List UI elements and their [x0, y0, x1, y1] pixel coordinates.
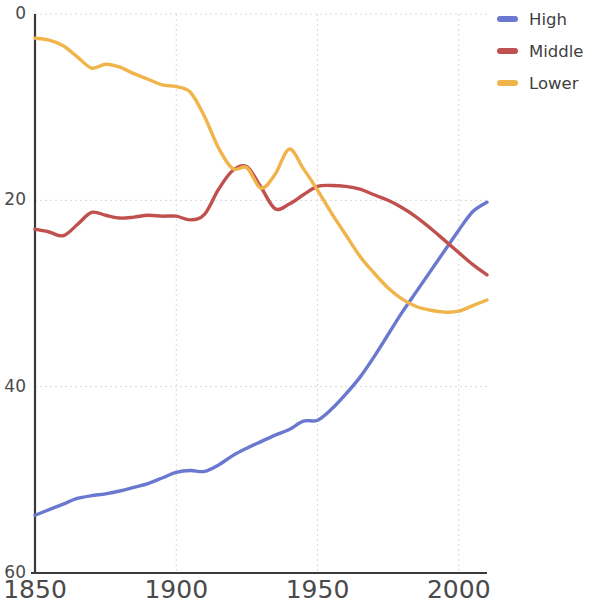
y-tick-labels-group: 6040200 [4, 3, 26, 582]
chart-root: 6040200 1850190019502000 HighMiddleLower [0, 0, 604, 606]
axis-lines-group [31, 14, 487, 573]
y-tick-label-40: 20 [4, 189, 26, 209]
legend-swatch-icon-high [497, 16, 518, 22]
y-tick-label-20: 40 [4, 376, 26, 396]
gridlines-group [35, 14, 487, 573]
legend-item-middle[interactable]: Middle [497, 36, 602, 66]
legend-item-lower[interactable]: Lower [497, 68, 602, 98]
x-tick-labels-group: 1850190019502000 [3, 575, 490, 604]
series-line-lower [35, 38, 487, 312]
x-tick-label-1900: 1900 [144, 575, 208, 604]
chart-legend: HighMiddleLower [497, 4, 602, 100]
series-line-high [35, 202, 487, 515]
series-line-middle [35, 166, 487, 275]
legend-item-high[interactable]: High [497, 4, 602, 34]
legend-swatch-icon-middle [497, 48, 518, 54]
legend-label: High [529, 10, 567, 29]
y-tick-label-60: 0 [15, 3, 26, 23]
x-tick-label-2000: 2000 [427, 575, 491, 604]
legend-label: Lower [529, 74, 578, 93]
legend-swatch-icon-lower [497, 80, 518, 86]
series-paths-group [35, 38, 487, 515]
legend-label: Middle [529, 42, 584, 61]
x-tick-label-1950: 1950 [286, 575, 350, 604]
x-tick-label-1850: 1850 [3, 575, 67, 604]
